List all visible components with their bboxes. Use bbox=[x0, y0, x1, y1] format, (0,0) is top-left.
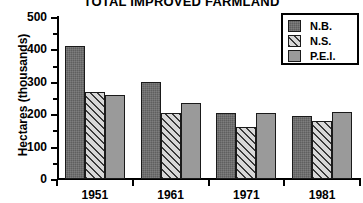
x-tick bbox=[208, 180, 210, 186]
bar-pei-1961 bbox=[181, 103, 201, 179]
y-tick-minor bbox=[53, 130, 57, 132]
x-tick-label: 1951 bbox=[82, 188, 109, 202]
chart-screenshot: TOTAL IMPROVED FARMLAND Hectares (thousa… bbox=[0, 0, 363, 203]
x-tick bbox=[132, 180, 134, 186]
bar-ns-1971 bbox=[236, 127, 256, 179]
y-tick-minor bbox=[53, 33, 57, 35]
legend-label: N.S. bbox=[310, 35, 331, 47]
bar-pei-1951 bbox=[105, 95, 125, 179]
x-tick-label: 1971 bbox=[233, 188, 260, 202]
y-tick-label: 500 bbox=[27, 10, 47, 24]
legend: N.B.N.S.P.E.I. bbox=[281, 13, 359, 65]
legend-label: P.E.I. bbox=[310, 50, 335, 62]
y-tick-label: 400 bbox=[27, 42, 47, 56]
x-tick bbox=[56, 180, 58, 186]
x-tick bbox=[283, 180, 285, 186]
bar-nb-1961 bbox=[141, 82, 161, 179]
bar-nb-1971 bbox=[216, 113, 236, 179]
y-tick-major: 200 bbox=[51, 114, 57, 116]
bar-pei-1981 bbox=[332, 112, 352, 179]
y-tick-label: 300 bbox=[27, 75, 47, 89]
y-tick-minor bbox=[53, 98, 57, 100]
bar-ns-1961 bbox=[161, 113, 181, 179]
bar-ns-1981 bbox=[312, 121, 332, 179]
bar-pei-1971 bbox=[256, 113, 276, 179]
chart-title: TOTAL IMPROVED FARMLAND bbox=[0, 0, 363, 9]
legend-item-nb[interactable]: N.B. bbox=[288, 19, 332, 33]
bar-nb-1951 bbox=[65, 46, 85, 179]
y-tick-major: 300 bbox=[51, 82, 57, 84]
y-tick-major: 100 bbox=[51, 147, 57, 149]
y-tick-major: 400 bbox=[51, 49, 57, 51]
legend-label: N.B. bbox=[310, 20, 332, 32]
legend-item-pei[interactable]: P.E.I. bbox=[288, 49, 335, 63]
y-tick-label: 100 bbox=[27, 140, 47, 154]
y-tick-label: 0 bbox=[40, 172, 47, 186]
y-axis-title: Hectares (thousands) bbox=[16, 10, 30, 180]
legend-swatch-icon bbox=[288, 50, 301, 62]
y-tick-minor bbox=[53, 66, 57, 68]
legend-swatch-icon bbox=[288, 20, 301, 32]
x-tick-label: 1961 bbox=[157, 188, 184, 202]
y-tick-major: 500 bbox=[51, 17, 57, 19]
y-tick-label: 200 bbox=[27, 107, 47, 121]
x-tick bbox=[359, 180, 361, 186]
x-tick-label: 1981 bbox=[309, 188, 336, 202]
bar-ns-1951 bbox=[85, 92, 105, 179]
bar-nb-1981 bbox=[292, 116, 312, 179]
y-tick-minor bbox=[53, 163, 57, 165]
y-axis-line bbox=[57, 16, 59, 180]
legend-swatch-icon bbox=[288, 35, 301, 47]
legend-item-ns[interactable]: N.S. bbox=[288, 34, 331, 48]
